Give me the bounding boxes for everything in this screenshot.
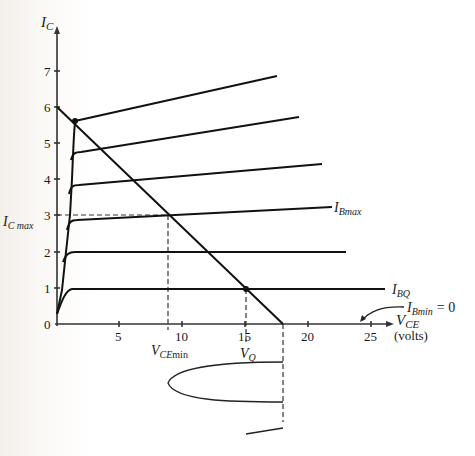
q-point-marker	[243, 286, 249, 292]
y-axis-label-sub: C	[46, 20, 54, 32]
reference-lines	[57, 215, 283, 422]
x-tick-15: 15	[238, 329, 251, 344]
x-tick-5: 5	[115, 329, 122, 344]
output-waveform	[168, 362, 283, 402]
ib-min-annotation: IBmin= 0	[406, 300, 455, 317]
x-tick-10: 10	[175, 329, 188, 344]
y-tick-0: 0	[44, 317, 51, 332]
ib-curve-3	[67, 207, 332, 230]
x-axis: 5 10 15 20 25 VCE (volts)	[55, 312, 428, 344]
ib-max-annotation: IBmax	[333, 200, 362, 217]
ib-curve-6	[75, 76, 277, 121]
y-axis-arrow-icon	[54, 26, 60, 34]
ib-q-annotation: IBQ	[391, 282, 411, 299]
x-tick-20: 20	[301, 329, 314, 344]
vq-annotation: VQ	[240, 346, 257, 363]
vce-min-annotation: VCEmin	[151, 343, 188, 360]
y-tick-5: 5	[44, 136, 51, 151]
x-axis-arrow-icon	[386, 321, 394, 327]
x-tick-25: 25	[364, 329, 377, 344]
y-tick-3: 3	[44, 208, 51, 223]
svg-text:IC: IC	[40, 14, 54, 32]
saturation-point-marker	[72, 118, 78, 124]
y-tick-7: 7	[44, 64, 51, 79]
y-tick-1: 1	[44, 281, 51, 296]
y-tick-6: 6	[44, 100, 51, 115]
ib-curve-2	[63, 252, 346, 262]
ib-min-pointer-arrowhead-icon	[360, 315, 366, 322]
y-tick-4: 4	[44, 172, 51, 187]
ib-curve-4	[69, 164, 322, 194]
y-tick-2: 2	[44, 245, 51, 260]
ic-max-annotation: IC max	[2, 214, 34, 231]
output-waveform-tail	[246, 428, 283, 434]
saturation-trunk	[57, 121, 75, 314]
x-axis-units: (volts)	[394, 328, 428, 343]
y-axis: IC 0 1 2 3 4 5 6 7	[40, 14, 60, 332]
ib-curve-1	[57, 289, 385, 314]
ib-curves	[57, 76, 385, 314]
characteristic-curve-figure: IC 0 1 2 3 4 5 6 7 5 10	[0, 0, 475, 456]
